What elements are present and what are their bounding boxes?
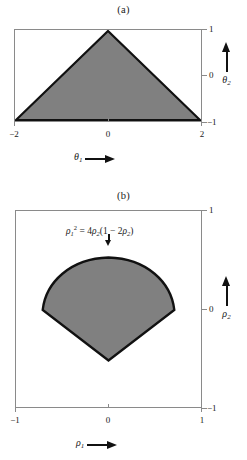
panel-a-triangle-region: [15, 30, 201, 121]
panel-b-xtick-label-2: 1: [190, 416, 214, 425]
panel-b-ytick-label-1: 0: [209, 305, 214, 314]
panel-a-plot-area: [14, 29, 202, 122]
panel-a-ytick-mark-1: [202, 75, 207, 76]
arrow-right-icon: [85, 155, 115, 163]
panel-b: (b) ρ12 = 4ρ2(1 − 2ρ2) −1 0 1 1 0 −1: [0, 180, 247, 460]
triangle-shape: [16, 31, 200, 120]
panel-b-equation-annotation: ρ12 = 4ρ2(1 − 2ρ2): [66, 222, 134, 239]
panel-b-ytick-mark-0: [202, 210, 207, 211]
figure-container: (a) −2 0 2 1 0 −1 θ1 θ2: [0, 0, 247, 460]
panel-a-xtick-mark-0: [14, 122, 15, 126]
panel-b-ytick-label-0: 1: [209, 206, 214, 215]
panel-b-yaxis-label: ρ2: [222, 309, 230, 322]
panel-a-xtick-label-0: −2: [2, 130, 26, 139]
panel-a-xtick-label-1: 0: [96, 130, 120, 139]
panel-a-xtick-mark-1: [108, 118, 109, 122]
panel-b-xaxis-label-group: ρ1: [76, 438, 117, 451]
panel-b-xaxis-label: ρ1: [76, 438, 84, 451]
panel-a-xaxis-label-group: θ1: [74, 152, 115, 165]
panel-b-xtick-label-0: −1: [3, 416, 27, 425]
panel-a-title: (a): [0, 4, 247, 15]
arrow-up-icon: [222, 42, 231, 72]
panel-a-xaxis-label: θ1: [74, 152, 82, 165]
panel-a-ytick-label-1: 0: [209, 71, 214, 80]
arrow-right-icon: [87, 441, 117, 449]
annotation-pointer-arrow-icon: [105, 234, 112, 246]
panel-a-yaxis-label-group: θ2: [222, 42, 231, 88]
panel-b-xtick-mark-1: [108, 404, 109, 408]
panel-a-xtick-label-2: 2: [190, 130, 214, 139]
panel-b-xtick-mark-0: [15, 408, 16, 412]
panel-b-ytick-label-2: −1: [207, 404, 217, 413]
panel-b-ytick-mark-1: [202, 309, 207, 310]
panel-b-xtick-label-1: 0: [96, 416, 120, 425]
panel-a-ytick-label-0: 1: [209, 25, 214, 34]
panel-b-title: (b): [0, 190, 247, 201]
panel-a-yaxis-label: θ2: [222, 75, 230, 88]
admissible-region-shape: [43, 258, 175, 361]
arrow-up-icon: [222, 276, 231, 306]
panel-a-ytick-label-2: −1: [207, 118, 217, 127]
panel-a-ytick-mark-0: [202, 29, 207, 30]
panel-b-yaxis-label-group: ρ2: [222, 276, 231, 322]
panel-a: (a) −2 0 2 1 0 −1 θ1 θ2: [0, 0, 247, 180]
